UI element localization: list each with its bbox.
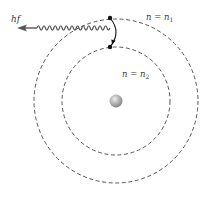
inner-orbit-label-main: n = n	[122, 69, 145, 79]
outer-orbit-label: n = n1	[146, 12, 173, 23]
bohr-atom-diagram: hf n = n1 n = n2	[0, 0, 204, 197]
photon-wave	[37, 26, 110, 31]
inner-orbit-label: n = n2	[122, 69, 149, 80]
outer-orbit-label-main: n = n	[146, 12, 169, 22]
electron-final	[108, 45, 112, 49]
photon-energy-label: hf	[11, 14, 22, 24]
inner-orbit-label-sub: 2	[145, 73, 149, 80]
electron-initial	[108, 16, 112, 20]
outer-orbit-label-sub: 1	[169, 16, 173, 23]
nucleus	[110, 95, 123, 108]
